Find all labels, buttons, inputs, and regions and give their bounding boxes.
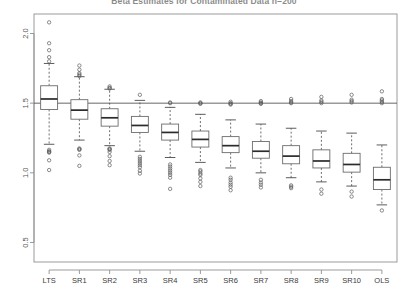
- outlier-point: [47, 60, 50, 63]
- boxplot-group: [313, 95, 330, 195]
- outlier-point: [350, 195, 353, 198]
- plot-area: 0.51.01.52.0LTSSR1SR2SR3SR4SR5SR6SR7SR8S…: [0, 0, 408, 295]
- outlier-point: [78, 64, 81, 67]
- chart-title: Beta Estimates for Contaminated Data n=2…: [0, 0, 408, 6]
- outlier-point: [168, 187, 171, 190]
- outlier-point: [138, 166, 141, 169]
- plot-frame: [34, 14, 397, 262]
- outlier-point: [380, 209, 383, 212]
- outlier-point: [320, 188, 323, 191]
- boxplot-group: [222, 100, 239, 192]
- x-axis-tick-label: SR2: [102, 276, 117, 285]
- x-axis-tick-label: SR5: [193, 276, 208, 285]
- outlier-point: [380, 90, 383, 93]
- boxplot-group: [373, 90, 390, 213]
- boxplot-group: [131, 93, 148, 175]
- x-axis-tick-label: SR8: [284, 276, 299, 285]
- outlier-point: [229, 185, 232, 188]
- box-iqr: [313, 150, 330, 168]
- outlier-point: [47, 21, 50, 24]
- box-iqr: [131, 116, 148, 132]
- box-iqr: [252, 141, 269, 158]
- x-axis-tick-label: SR10: [342, 276, 361, 285]
- x-axis-tick-label: SR6: [223, 276, 238, 285]
- boxplot-group: [192, 101, 209, 188]
- x-axis-tick-label: SR1: [72, 276, 87, 285]
- outlier-point: [350, 93, 353, 96]
- x-axis-tick-label: SR3: [133, 276, 148, 285]
- outlier-point: [47, 42, 50, 45]
- x-axis-tick-label: SR4: [163, 276, 178, 285]
- y-axis-tick-label: 0.5: [22, 237, 31, 247]
- outlier-point: [108, 163, 111, 166]
- box-iqr: [283, 146, 300, 164]
- outlier-point: [138, 93, 141, 96]
- boxplot-group: [252, 99, 269, 189]
- box-iqr: [41, 86, 58, 110]
- outlier-point: [78, 68, 81, 71]
- x-axis-tick-label: LTS: [43, 276, 56, 285]
- boxplot-chart: Beta Estimates for Contaminated Data n=2…: [0, 0, 408, 295]
- outlier-point: [320, 95, 323, 98]
- outlier-point: [47, 49, 50, 52]
- outlier-point: [199, 177, 202, 180]
- box-iqr: [373, 167, 390, 189]
- outlier-point: [78, 164, 81, 167]
- boxplot-group: [162, 101, 179, 191]
- outlier-point: [350, 190, 353, 193]
- outlier-point: [199, 184, 202, 187]
- outlier-point: [199, 180, 202, 183]
- y-axis-tick-label: 1.0: [22, 168, 31, 178]
- boxplot-group: [343, 93, 360, 198]
- x-axis-tick-label: SR9: [314, 276, 329, 285]
- box-iqr: [222, 137, 239, 153]
- boxplot-group: [71, 64, 88, 168]
- boxplot-group: [41, 21, 58, 172]
- outlier-point: [320, 192, 323, 195]
- outlier-point: [108, 154, 111, 157]
- y-axis-tick-label: 1.5: [22, 98, 31, 108]
- outlier-point: [47, 168, 50, 171]
- outlier-point: [47, 55, 50, 58]
- outlier-point: [229, 189, 232, 192]
- outlier-point: [108, 159, 111, 162]
- boxplot-group: [101, 85, 118, 167]
- x-axis-tick-label: SR7: [254, 276, 269, 285]
- outlier-point: [47, 159, 50, 162]
- y-axis-tick-label: 2.0: [22, 28, 31, 38]
- outlier-point: [78, 154, 81, 157]
- x-axis-tick-label: OLS: [374, 276, 389, 285]
- box-iqr: [343, 153, 360, 172]
- boxplot-group: [283, 97, 300, 190]
